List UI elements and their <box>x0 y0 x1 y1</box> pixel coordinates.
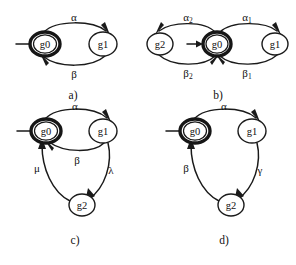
node-c-g0[interactable]: g0 <box>31 119 61 143</box>
node-label-c-g1: g1 <box>98 126 109 137</box>
panel-b: α2 β2 α1 β1 g2 <box>147 11 288 102</box>
panel-caption-c: c) <box>71 234 80 247</box>
edge-label-c-mu: μ <box>34 162 40 174</box>
node-c-g2[interactable]: g2 <box>69 194 95 216</box>
edge-label-d-beta: β <box>183 162 189 174</box>
node-label-d-g0: g0 <box>190 126 201 137</box>
node-label-c-g0: g0 <box>41 126 52 137</box>
node-label-a-g1: g1 <box>98 39 109 50</box>
node-a-g0[interactable]: g0 <box>30 32 60 56</box>
node-c-g1[interactable]: g1 <box>89 119 117 143</box>
node-label-b-g2: g2 <box>155 39 166 50</box>
edge-label-a-beta: β <box>71 68 77 80</box>
edge-label-b-beta2: β2 <box>183 67 193 81</box>
start-arrow-b <box>187 41 203 48</box>
edge-label-a-alpha: α <box>71 11 77 23</box>
node-d-g1[interactable]: g1 <box>238 119 266 143</box>
node-label-a-g0: g0 <box>40 39 51 50</box>
node-b-g1[interactable]: g1 <box>262 33 288 55</box>
panel-a: α β g0 g1 a) <box>16 11 117 102</box>
node-label-c-g2: g2 <box>77 200 88 211</box>
node-b-g2[interactable]: g2 <box>147 33 173 55</box>
panel-caption-d: d) <box>219 234 229 247</box>
node-a-g1[interactable]: g1 <box>89 32 117 56</box>
edge-label-d-alpha: α <box>221 100 227 112</box>
edge-label-c-lambda: λ <box>108 164 114 176</box>
automata-figure-canvas: α β g0 g1 a) <box>0 0 296 265</box>
edge-label-b-alpha1: α1 <box>242 11 252 25</box>
edge-d-g1-g2 <box>234 143 258 202</box>
edge-d-g2-g0 <box>187 138 219 201</box>
panel-d: α γ β g0 g1 <box>166 100 266 247</box>
node-d-g0[interactable]: g0 <box>180 119 210 143</box>
edge-label-c-alpha: α <box>72 100 78 112</box>
node-b-g0[interactable]: g0 <box>203 32 231 56</box>
node-label-d-g1: g1 <box>247 126 258 137</box>
edge-c-g1-g2 <box>85 143 109 202</box>
node-label-d-g2: g2 <box>226 200 237 211</box>
panel-c: α β λ μ g0 <box>17 100 117 247</box>
node-label-b-g1: g1 <box>270 39 281 50</box>
edge-label-d-gamma: γ <box>257 164 263 176</box>
edge-label-b-alpha2: α2 <box>183 11 193 25</box>
edge-label-c-beta: β <box>74 154 80 166</box>
node-d-g2[interactable]: g2 <box>218 194 244 216</box>
edge-c-g2-g0 <box>38 138 70 201</box>
edge-label-b-beta1: β1 <box>242 67 252 81</box>
automata-figure: α β g0 g1 a) <box>0 0 296 265</box>
node-label-b-g0: g0 <box>212 39 223 50</box>
